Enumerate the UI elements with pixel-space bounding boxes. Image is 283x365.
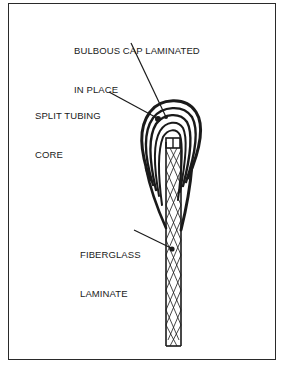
split-tubing-core: [166, 138, 180, 148]
leader-bulbous-cap: [131, 43, 166, 117]
stem: [166, 142, 181, 346]
leader-dot-cap: [164, 115, 168, 119]
stem-illustration: [0, 0, 283, 365]
leader-dot-core: [155, 116, 161, 122]
leader-dot-laminate: [169, 246, 174, 251]
leader-split-tubing-core: [109, 92, 157, 118]
bulbous-cap: [142, 101, 201, 230]
